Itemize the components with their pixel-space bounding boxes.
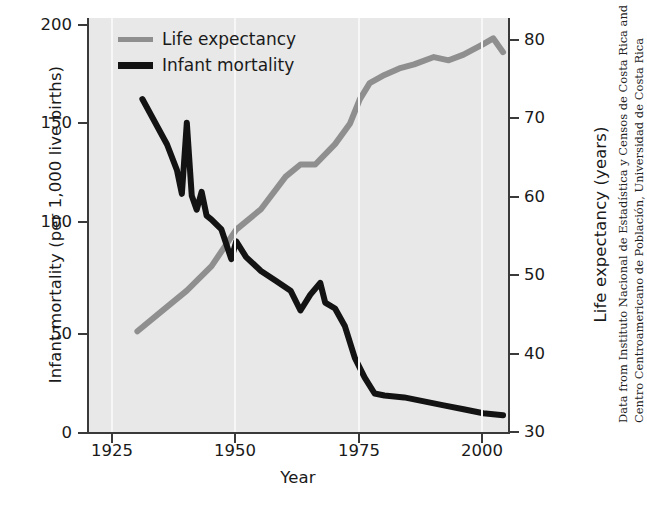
y-right-tickmark-80 (510, 39, 519, 41)
y-right-ticklabel-60: 60 (524, 187, 582, 206)
legend-swatch-life-expectancy (118, 37, 153, 42)
y-right-ticklabel-70: 70 (524, 108, 582, 127)
series-plot-area (88, 18, 508, 433)
x-axis-title: Year (88, 468, 508, 487)
y-axis-left-title: Infant mortality (per 1,000 live births) (46, 60, 65, 390)
y-left-ticklabel-200: 200 (14, 15, 72, 34)
gridline-2000 (481, 18, 483, 433)
y-right-ticklabel-30: 30 (524, 422, 582, 441)
credit-line-2: Centro Centroamericano de Población, Uni… (631, 43, 647, 423)
legend-label-life-expectancy: Life expectancy (162, 29, 296, 49)
y-left-tickmark-150 (78, 122, 87, 124)
legend-swatch-infant-mortality (118, 62, 153, 69)
y-left-tickmark-0 (78, 432, 87, 434)
gridline-1925 (111, 18, 113, 433)
legend-item-infant-mortality: Infant mortality (118, 52, 348, 78)
x-axis-spine (87, 432, 510, 434)
gridline-1950 (234, 18, 236, 433)
y-right-tickmark-70 (510, 117, 519, 119)
legend-label-infant-mortality: Infant mortality (162, 55, 294, 75)
series-infant-mortality-line (142, 99, 503, 415)
y-left-tickmark-100 (78, 221, 87, 223)
y-right-ticklabel-80: 80 (524, 30, 582, 49)
y-right-tickmark-60 (510, 196, 519, 198)
y-right-tickmark-40 (510, 353, 519, 355)
x-ticklabel-1975: 1975 (324, 441, 394, 460)
plot-panel (88, 18, 508, 433)
x-ticklabel-1950: 1950 (200, 441, 270, 460)
y-right-tickmark-50 (510, 274, 519, 276)
y-left-tickmark-200 (78, 24, 87, 26)
y-right-ticklabel-40: 40 (524, 344, 582, 363)
y-axis-right-title: Life expectancy (years) (591, 60, 610, 390)
chart-legend: Life expectancy Infant mortality (118, 26, 348, 78)
x-ticklabel-2000: 2000 (447, 441, 517, 460)
y-right-tickmark-30 (510, 431, 519, 433)
x-ticklabel-1925: 1925 (77, 441, 147, 460)
y-left-tickmark-50 (78, 333, 87, 335)
y-axis-left-spine (87, 18, 89, 434)
data-source-credit: Data from Instituto Nacional de Estadíst… (615, 43, 647, 423)
credit-line-1: Data from Instituto Nacional de Estadíst… (615, 43, 631, 423)
y-right-ticklabel-50: 50 (524, 265, 582, 284)
legend-item-life-expectancy: Life expectancy (118, 26, 348, 52)
gridline-1975 (358, 18, 360, 433)
y-left-ticklabel-0: 0 (14, 423, 72, 442)
y-axis-right-spine (508, 18, 510, 434)
